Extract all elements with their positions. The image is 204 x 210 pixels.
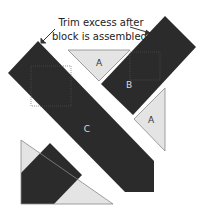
quilt-block-diagram: Trim excess after block is assembled. C … (0, 0, 204, 210)
piece-a-right-label: A (148, 115, 155, 125)
caption-line-1: Trim excess after (57, 17, 144, 28)
piece-c-label: C (84, 124, 90, 134)
caption-line-2: block is assembled. (52, 31, 150, 42)
piece-a-top-label: A (96, 58, 103, 68)
piece-b-label: B (126, 80, 132, 90)
